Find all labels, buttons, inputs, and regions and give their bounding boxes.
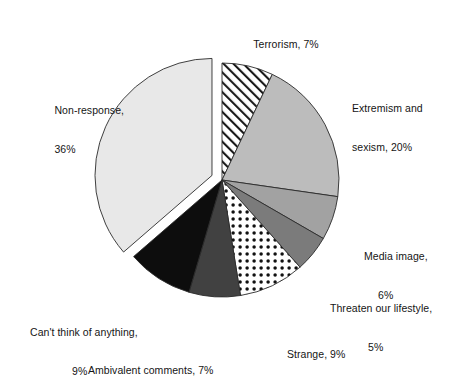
slice-label-extremism-and-sexism: Extremism and sexism, 20% — [352, 76, 448, 180]
slice-label-strange-line1: Strange, 9% — [287, 348, 387, 361]
slice-label-terrorism-line1: Terrorism, 7% — [222, 38, 350, 51]
slice-label-non-response-line1: Non-response, — [6, 104, 124, 117]
pie-slices — [95, 58, 339, 297]
slice-label-media-image-line1: Media image, — [364, 250, 450, 263]
slice-label-terrorism: Terrorism, 7% — [222, 12, 350, 77]
slice-label-cant-think-of-anything: Can't think of anything, 9% — [30, 300, 170, 380]
slice-label-non-response-line2: 36% — [6, 143, 124, 156]
slice-label-cant-think-line2: 9% — [30, 365, 170, 378]
slice-label-strange: Strange, 9% — [287, 322, 387, 380]
slice-label-extremism-line2: sexism, 20% — [352, 141, 448, 154]
slice-label-cant-think-line1: Can't think of anything, — [30, 326, 170, 339]
slice-label-extremism-line1: Extremism and — [352, 102, 448, 115]
slice-label-non-response: Non-response, 36% — [6, 78, 124, 182]
slice-label-threaten-line1: Threaten our lifestyle, — [330, 302, 450, 315]
